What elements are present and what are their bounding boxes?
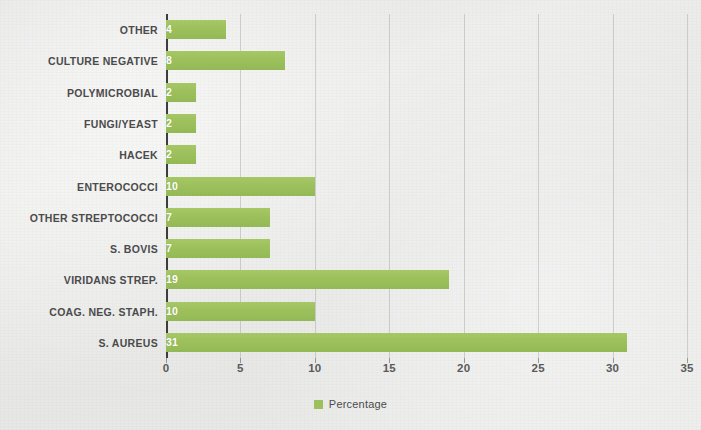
category-label: S. BOVIS bbox=[0, 243, 158, 255]
legend-label-percentage: Percentage bbox=[329, 398, 387, 410]
value-tick-label: 10 bbox=[308, 362, 321, 374]
bar-row[interactable]: 4 bbox=[166, 20, 687, 39]
bar-value-label: 2 bbox=[166, 145, 196, 164]
bar-row[interactable]: 7 bbox=[166, 208, 687, 227]
bar-value-label: 2 bbox=[166, 114, 196, 133]
gridline-35 bbox=[687, 14, 688, 358]
category-label: FUNGI/YEAST bbox=[0, 118, 158, 130]
value-tick-label: 25 bbox=[532, 362, 545, 374]
plot-area: 482221077191031 bbox=[166, 14, 687, 358]
bar-value-label: 2 bbox=[166, 83, 196, 102]
bar-value-label: 7 bbox=[166, 208, 270, 227]
value-tick-label: 20 bbox=[457, 362, 470, 374]
bar-row[interactable]: 19 bbox=[166, 270, 687, 289]
bar-row[interactable]: 2 bbox=[166, 83, 687, 102]
bar-chart-figure: 482221077191031 OTHERCULTURE NEGATIVEPOL… bbox=[0, 0, 701, 430]
category-label: ENTEROCOCCI bbox=[0, 181, 158, 193]
category-label: S. AUREUS bbox=[0, 337, 158, 349]
bar-row[interactable]: 10 bbox=[166, 302, 687, 321]
value-tick-label: 5 bbox=[237, 362, 244, 374]
value-tick-label: 15 bbox=[383, 362, 396, 374]
bar-row[interactable]: 10 bbox=[166, 177, 687, 196]
chart-legend: Percentage bbox=[0, 398, 701, 410]
value-axis-labels: 05101520253035 bbox=[166, 362, 687, 382]
bar-row[interactable]: 2 bbox=[166, 114, 687, 133]
bar-row[interactable]: 8 bbox=[166, 51, 687, 70]
category-label: OTHER STREPTOCOCCI bbox=[0, 212, 158, 224]
value-tick-label: 0 bbox=[163, 362, 170, 374]
category-label: CULTURE NEGATIVE bbox=[0, 55, 158, 67]
bar-value-label: 19 bbox=[166, 270, 449, 289]
bar-row[interactable]: 31 bbox=[166, 333, 687, 352]
category-label: HACEK bbox=[0, 149, 158, 161]
category-label: OTHER bbox=[0, 24, 158, 36]
bar-row[interactable]: 2 bbox=[166, 145, 687, 164]
bar-value-label: 10 bbox=[166, 177, 315, 196]
category-axis-labels: OTHERCULTURE NEGATIVEPOLYMICROBIALFUNGI/… bbox=[0, 14, 158, 358]
legend-swatch-percentage bbox=[314, 400, 323, 409]
value-tick-label: 35 bbox=[680, 362, 693, 374]
category-label: COAG. NEG. STAPH. bbox=[0, 306, 158, 318]
bar-row[interactable]: 7 bbox=[166, 239, 687, 258]
category-label: POLYMICROBIAL bbox=[0, 87, 158, 99]
bar-value-label: 7 bbox=[166, 239, 270, 258]
bar-value-label: 4 bbox=[166, 20, 226, 39]
value-tick-label: 30 bbox=[606, 362, 619, 374]
bar-value-label: 8 bbox=[166, 51, 285, 70]
bar-value-label: 10 bbox=[166, 302, 315, 321]
bar-value-label: 31 bbox=[166, 333, 627, 352]
category-label: VIRIDANS STREP. bbox=[0, 274, 158, 286]
